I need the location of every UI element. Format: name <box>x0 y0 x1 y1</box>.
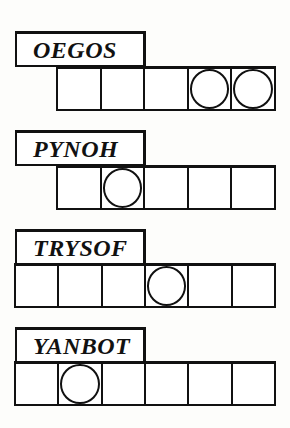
scrambled-word: PYNOH <box>33 136 118 163</box>
answer-cell[interactable] <box>189 168 233 208</box>
answer-cells <box>14 263 276 308</box>
answer-cell[interactable] <box>189 266 232 306</box>
scrambled-word: TRYSOF <box>33 235 128 262</box>
answer-cell[interactable] <box>232 168 274 208</box>
answer-cell[interactable] <box>103 266 146 306</box>
answer-cell-circled[interactable] <box>232 69 274 109</box>
answer-cell[interactable] <box>58 168 102 208</box>
answer-cell[interactable] <box>16 364 59 404</box>
answer-cell[interactable] <box>233 364 274 404</box>
answer-cell[interactable] <box>16 266 59 306</box>
answer-cell[interactable] <box>58 69 102 109</box>
circle-icon <box>147 266 186 306</box>
scrambled-word: YANBOT <box>33 333 130 360</box>
circle-icon <box>190 69 230 109</box>
answer-cell-circled[interactable] <box>189 69 233 109</box>
scrambled-word-box: TRYSOF <box>15 229 146 265</box>
answer-cell[interactable] <box>146 364 189 404</box>
answer-cells <box>56 165 276 210</box>
circle-icon <box>233 69 273 109</box>
answer-cell[interactable] <box>102 69 146 109</box>
answer-cell-circled[interactable] <box>102 168 146 208</box>
answer-cell[interactable] <box>145 69 189 109</box>
scrambled-word-box: OEGOS <box>15 31 146 67</box>
answer-cell[interactable] <box>189 364 232 404</box>
answer-cell[interactable] <box>233 266 274 306</box>
scrambled-word: OEGOS <box>33 37 117 64</box>
scrambled-word-box: YANBOT <box>15 327 146 363</box>
answer-cells <box>14 361 276 406</box>
answer-cell-circled[interactable] <box>59 364 102 404</box>
scrambled-word-box: PYNOH <box>15 130 146 166</box>
circle-icon <box>103 168 143 208</box>
answer-cell[interactable] <box>103 364 146 404</box>
answer-cell[interactable] <box>59 266 102 306</box>
answer-cells <box>56 66 276 111</box>
answer-cell-circled[interactable] <box>146 266 189 306</box>
answer-cell[interactable] <box>145 168 189 208</box>
circle-icon <box>60 364 99 404</box>
